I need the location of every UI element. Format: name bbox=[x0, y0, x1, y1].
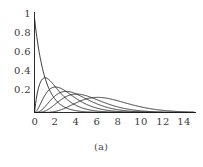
x-tick-labels: 0 2 4 6 8 10 12 14 bbox=[32, 116, 191, 127]
x-tick-label: 12 bbox=[156, 116, 170, 127]
x-tick-label: 10 bbox=[134, 116, 148, 127]
y-tick-label: 0.6 bbox=[14, 46, 31, 57]
figure-panel: 0.2 0.4 0.6 0.8 1 0 2 4 6 8 10 12 14 (a) bbox=[0, 0, 203, 167]
curve-k-1 bbox=[35, 18, 195, 112]
axes-group bbox=[34, 12, 196, 113]
x-tick-label: 4 bbox=[73, 116, 80, 127]
curve-k-2 bbox=[35, 78, 195, 113]
curve-group bbox=[35, 18, 195, 112]
curve-k-7 bbox=[35, 97, 195, 112]
x-tick-label: 14 bbox=[177, 116, 191, 127]
y-tick-label: 0.8 bbox=[14, 27, 31, 38]
x-tick-label: 0 bbox=[32, 116, 39, 127]
x-tick-label: 6 bbox=[94, 116, 101, 127]
y-tick-label: 0.2 bbox=[14, 84, 31, 95]
y-tick-label: 1 bbox=[24, 8, 31, 19]
x-tick-label: 2 bbox=[52, 116, 59, 127]
y-tick-label: 0.4 bbox=[14, 65, 31, 76]
x-tick-label: 8 bbox=[115, 116, 122, 127]
y-tick-labels: 0.2 0.4 0.6 0.8 1 bbox=[14, 8, 31, 95]
chart-canvas: 0.2 0.4 0.6 0.8 1 0 2 4 6 8 10 12 14 (a) bbox=[0, 0, 203, 167]
figure-caption: (a) bbox=[94, 141, 108, 152]
